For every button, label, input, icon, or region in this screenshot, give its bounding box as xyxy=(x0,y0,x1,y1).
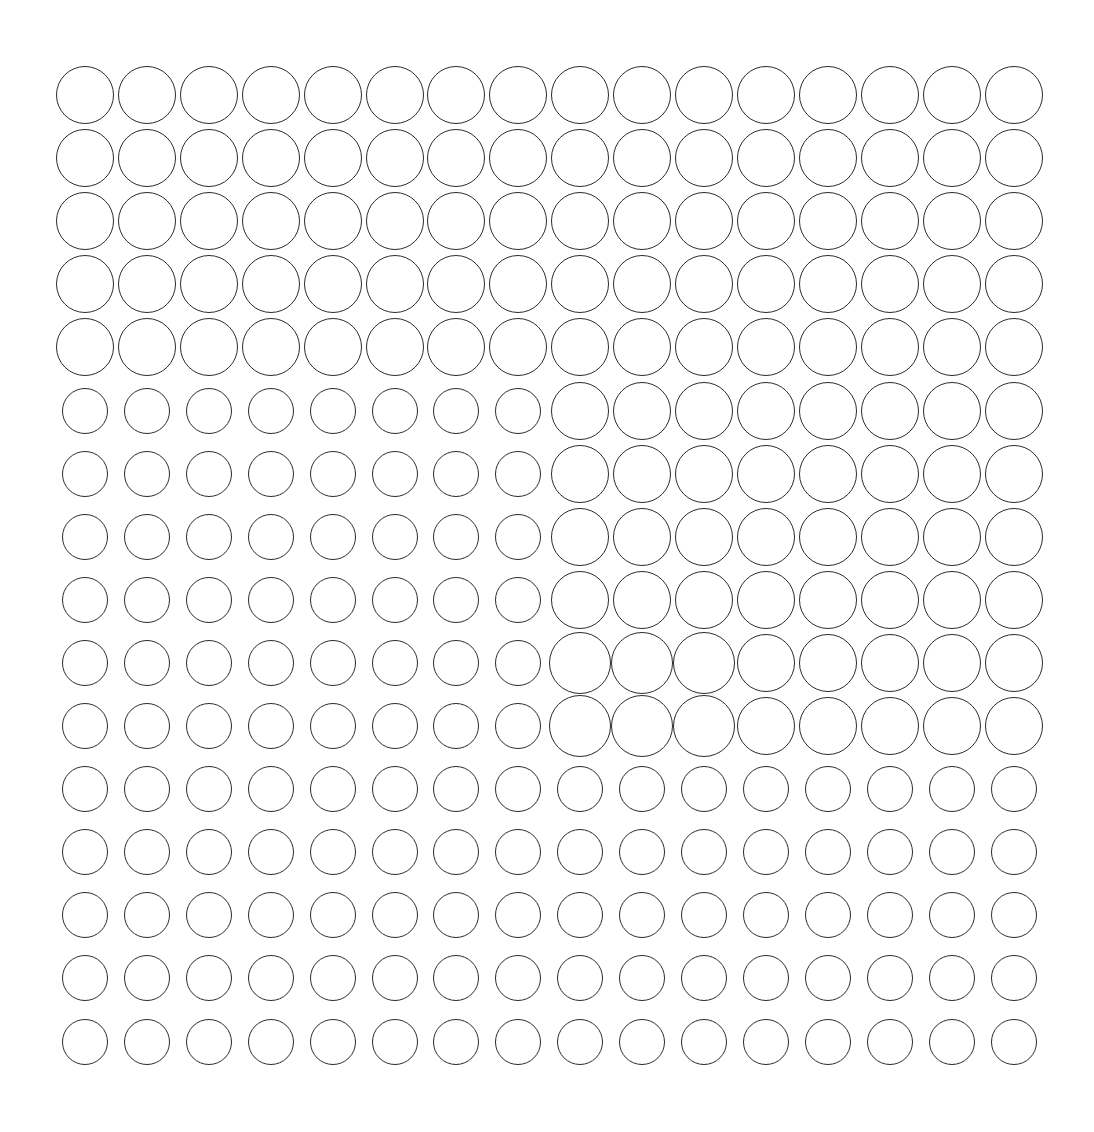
large-circle xyxy=(799,508,857,566)
large-circle xyxy=(675,255,733,313)
small-circle xyxy=(124,829,170,875)
large-circle xyxy=(985,382,1043,440)
small-circle xyxy=(929,829,975,875)
large-circle xyxy=(611,695,673,757)
small-circle xyxy=(433,640,479,686)
large-circle xyxy=(427,66,485,124)
large-circle xyxy=(675,129,733,187)
small-circle xyxy=(991,892,1037,938)
small-circle xyxy=(186,955,232,1001)
large-circle xyxy=(799,445,857,503)
large-circle xyxy=(242,255,300,313)
small-circle xyxy=(743,766,789,812)
large-circle xyxy=(56,129,114,187)
large-circle xyxy=(673,695,735,757)
small-circle xyxy=(62,514,108,560)
small-circle xyxy=(372,892,418,938)
large-circle xyxy=(613,255,671,313)
small-circle xyxy=(495,577,541,623)
small-circle xyxy=(248,640,294,686)
small-circle xyxy=(372,955,418,1001)
small-circle xyxy=(433,451,479,497)
small-circle xyxy=(867,955,913,1001)
small-circle xyxy=(372,577,418,623)
large-circle xyxy=(861,255,919,313)
large-circle xyxy=(737,571,795,629)
large-circle xyxy=(799,129,857,187)
small-circle xyxy=(495,703,541,749)
large-circle xyxy=(551,129,609,187)
small-circle xyxy=(681,955,727,1001)
large-circle xyxy=(118,129,176,187)
large-circle xyxy=(985,318,1043,376)
large-circle xyxy=(675,571,733,629)
large-circle xyxy=(549,695,611,757)
large-circle xyxy=(56,192,114,250)
small-circle xyxy=(186,892,232,938)
small-circle xyxy=(62,766,108,812)
small-circle xyxy=(310,577,356,623)
large-circle xyxy=(985,66,1043,124)
large-circle xyxy=(923,66,981,124)
large-circle xyxy=(242,318,300,376)
small-circle xyxy=(310,640,356,686)
large-circle xyxy=(366,192,424,250)
small-circle xyxy=(867,829,913,875)
small-circle xyxy=(310,1019,356,1065)
small-circle xyxy=(991,955,1037,1001)
large-circle xyxy=(799,255,857,313)
small-circle xyxy=(743,955,789,1001)
large-circle xyxy=(304,129,362,187)
large-circle xyxy=(985,634,1043,692)
large-circle xyxy=(613,571,671,629)
large-circle xyxy=(427,129,485,187)
large-circle xyxy=(799,318,857,376)
small-circle xyxy=(248,829,294,875)
small-circle xyxy=(495,766,541,812)
large-circle xyxy=(737,382,795,440)
small-circle xyxy=(62,388,108,434)
large-circle xyxy=(242,192,300,250)
large-circle xyxy=(304,255,362,313)
large-circle xyxy=(675,192,733,250)
small-circle xyxy=(310,514,356,560)
small-circle xyxy=(310,955,356,1001)
small-circle xyxy=(186,451,232,497)
large-circle xyxy=(985,508,1043,566)
small-circle xyxy=(62,829,108,875)
large-circle xyxy=(985,697,1043,755)
large-circle xyxy=(56,318,114,376)
small-circle xyxy=(681,1019,727,1065)
large-circle xyxy=(737,697,795,755)
small-circle xyxy=(929,1019,975,1065)
large-circle xyxy=(366,129,424,187)
small-circle xyxy=(557,766,603,812)
large-circle xyxy=(304,318,362,376)
large-circle xyxy=(56,255,114,313)
circle-grid-figure xyxy=(0,0,1094,1132)
large-circle xyxy=(985,129,1043,187)
small-circle xyxy=(310,892,356,938)
large-circle xyxy=(985,571,1043,629)
small-circle xyxy=(433,892,479,938)
small-circle xyxy=(619,766,665,812)
large-circle xyxy=(551,382,609,440)
small-circle xyxy=(62,703,108,749)
small-circle xyxy=(124,955,170,1001)
small-circle xyxy=(62,1019,108,1065)
large-circle xyxy=(613,382,671,440)
small-circle xyxy=(124,703,170,749)
small-circle xyxy=(991,829,1037,875)
large-circle xyxy=(737,634,795,692)
large-circle xyxy=(489,129,547,187)
small-circle xyxy=(124,766,170,812)
large-circle xyxy=(304,66,362,124)
small-circle xyxy=(495,955,541,1001)
large-circle xyxy=(923,255,981,313)
small-circle xyxy=(248,703,294,749)
small-circle xyxy=(186,829,232,875)
large-circle xyxy=(923,382,981,440)
large-circle xyxy=(180,318,238,376)
small-circle xyxy=(929,766,975,812)
large-circle xyxy=(737,318,795,376)
